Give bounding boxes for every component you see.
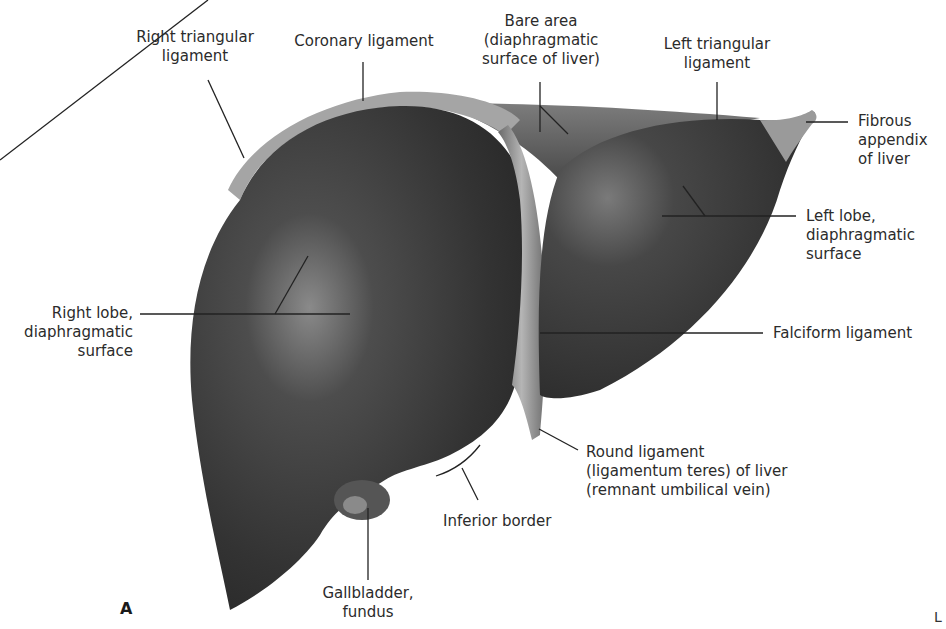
label-coronary-ligament: Coronary ligament xyxy=(280,32,448,51)
label-left-triangular-ligament: Left triangular ligament xyxy=(652,35,782,73)
label-line: appendix xyxy=(858,131,928,150)
label-line: surface xyxy=(0,342,133,361)
liver-illustration xyxy=(0,0,946,629)
label-line: diaphragmatic xyxy=(0,323,133,342)
label-left-lobe: Left lobe, diaphragmatic surface xyxy=(806,207,915,264)
label-falciform-ligament: Falciform ligament xyxy=(773,324,912,343)
label-line: Left triangular xyxy=(652,35,782,54)
left-lobe-shape xyxy=(539,112,815,398)
label-line: diaphragmatic xyxy=(806,226,915,245)
label-line: surface of liver) xyxy=(480,50,602,69)
label-line: Coronary ligament xyxy=(280,32,448,51)
label-line: (diaphragmatic xyxy=(480,31,602,50)
label-line: Falciform ligament xyxy=(773,324,912,343)
label-line: Round ligament xyxy=(586,443,787,462)
label-line: (remnant umbilical vein) xyxy=(586,481,787,500)
label-line: (ligamentum teres) of liver xyxy=(586,462,787,481)
label-line: of liver xyxy=(858,150,928,169)
label-line: Fibrous xyxy=(858,112,928,131)
label-line: Right triangular xyxy=(130,28,260,47)
label-line: Right lobe, xyxy=(0,304,133,323)
label-right-triangular-ligament: Right triangular ligament xyxy=(130,28,260,66)
label-line: ligament xyxy=(652,54,782,73)
label-fibrous-appendix: Fibrous appendix of liver xyxy=(858,112,928,169)
orientation-marker: L xyxy=(934,609,942,625)
label-line: Inferior border xyxy=(443,512,551,531)
label-inferior-border: Inferior border xyxy=(443,512,551,531)
label-line: Gallbladder, xyxy=(318,584,418,603)
label-bare-area: Bare area (diaphragmatic surface of live… xyxy=(480,12,602,69)
panel-letter: A xyxy=(120,599,132,618)
label-line: Bare area xyxy=(480,12,602,31)
label-line: ligament xyxy=(130,47,260,66)
label-line: surface xyxy=(806,245,915,264)
liver-anterior-view-figure: Right triangular ligament Coronary ligam… xyxy=(0,0,946,629)
label-right-lobe: Right lobe, diaphragmatic surface xyxy=(0,304,133,361)
label-line: Left lobe, xyxy=(806,207,915,226)
label-round-ligament: Round ligament (ligamentum teres) of liv… xyxy=(586,443,787,500)
label-line: fundus xyxy=(318,603,418,622)
label-gallbladder-fundus: Gallbladder, fundus xyxy=(318,584,418,622)
